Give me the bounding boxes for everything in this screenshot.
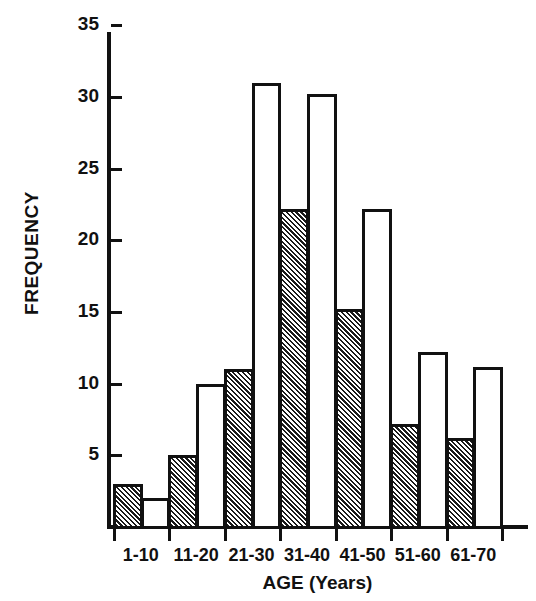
y-axis-tick-label: 20 xyxy=(55,228,99,250)
y-axis-tick-label: 5 xyxy=(55,443,99,465)
y-axis-tick xyxy=(111,239,122,242)
histogram-bar xyxy=(446,438,476,529)
histogram-bar xyxy=(224,369,254,529)
y-axis-tick xyxy=(111,96,122,99)
y-axis-tick xyxy=(111,311,122,314)
histogram-bar xyxy=(252,83,282,529)
y-axis-tick-label: 35 xyxy=(55,13,99,35)
histogram-bar xyxy=(362,209,392,529)
y-axis-tick xyxy=(111,24,122,27)
x-axis-tick xyxy=(224,529,227,541)
x-axis-title: AGE (Years) xyxy=(107,572,528,594)
histogram-bar xyxy=(390,424,420,529)
y-axis-tick xyxy=(111,168,122,171)
x-axis-tick xyxy=(113,529,116,541)
x-axis-tick xyxy=(335,529,338,541)
x-axis-tick-label: 61-70 xyxy=(431,545,515,566)
histogram-bar xyxy=(279,209,309,529)
x-axis-tick xyxy=(501,529,504,541)
y-axis-tick xyxy=(111,454,122,457)
histogram-bar xyxy=(196,384,226,529)
histogram-figure: FREQUENCY 5101520253035 1-1011-2021-3031… xyxy=(0,0,536,601)
histogram-bar xyxy=(335,309,365,529)
histogram-bar xyxy=(168,455,198,529)
y-axis-tick-label: 25 xyxy=(55,157,99,179)
x-axis-tick xyxy=(446,529,449,541)
histogram-bar xyxy=(473,367,503,529)
histogram-bar xyxy=(418,352,448,529)
y-axis-tick-label: 30 xyxy=(55,85,99,107)
x-axis-tick xyxy=(390,529,393,541)
histogram-bar xyxy=(113,484,143,529)
histogram-bar xyxy=(307,94,337,529)
y-axis-title: FREQUENCY xyxy=(17,143,47,363)
y-axis-tick xyxy=(111,383,122,386)
y-axis-tick-label: 15 xyxy=(55,300,99,322)
x-axis-tick xyxy=(168,529,171,541)
y-axis-tick-label: 10 xyxy=(55,372,99,394)
x-axis-tick xyxy=(279,529,282,541)
